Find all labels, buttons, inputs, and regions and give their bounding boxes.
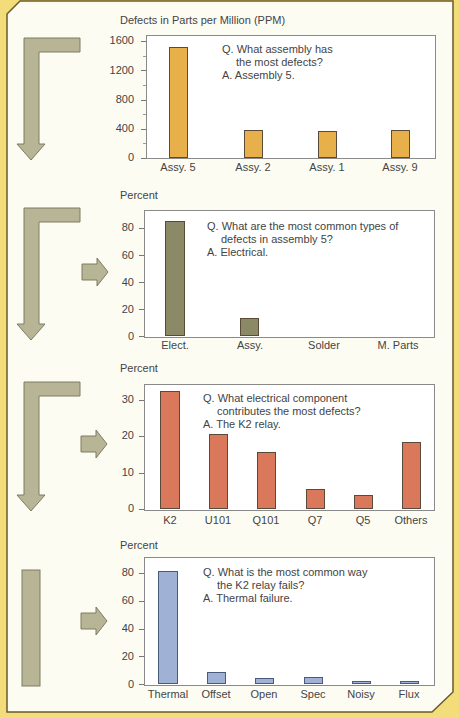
annotation-qa: Q. What assembly has the most defects? A… [222,43,333,82]
bar-q5 [354,495,373,509]
y-tick: 1200 [104,64,134,76]
y-tick: 20 [104,303,134,315]
y-axis-label: Percent [120,189,158,201]
bar-elect [165,221,185,336]
y-tick: 10 [104,466,134,478]
y-axis-label: Percent [120,539,158,551]
y-tick: 40 [104,276,134,288]
down-arrow-icon [17,38,80,160]
bar-q7 [306,489,325,509]
x-category: Flux [379,688,439,700]
annotation-qa: Q. What are the most common types of def… [207,220,398,259]
x-category: Assy. 2 [223,161,283,173]
y-tick: 40 [104,622,134,634]
bar-flux [400,681,419,684]
bar-u101 [209,434,228,509]
bar-others [402,442,421,509]
bar-assy-9 [391,130,410,158]
y-tick: 800 [104,93,134,105]
annotation-qa: Q. What electrical component contributes… [203,392,361,431]
vertical-bar-icon [22,570,40,686]
bar-assy-1 [318,131,337,158]
x-category: M. Parts [368,339,428,351]
bar-k2 [160,391,180,509]
x-category: Elect. [145,339,205,351]
x-category: Others [381,514,441,526]
y-axis-label: Defects in Parts per Million (PPM) [120,14,285,26]
bar-thermal [158,571,178,684]
bar-spec [304,677,323,684]
flow-arrows [0,0,120,718]
x-category: Assy. 1 [297,161,357,173]
y-tick: 30 [104,393,134,405]
y-tick: 60 [104,594,134,606]
bar-noisy [352,681,371,684]
y-tick: 20 [104,429,134,441]
y-tick: 0 [104,330,134,342]
bar-assy [240,318,259,336]
y-tick: 80 [104,221,134,233]
bar-assy-2 [244,130,263,158]
bar-q101 [257,452,276,509]
y-tick: 0 [104,678,134,690]
y-tick: 60 [104,249,134,261]
y-tick: 0 [104,502,134,514]
y-tick: 80 [104,566,134,578]
bar-offset [207,672,226,684]
y-tick: 400 [104,122,134,134]
bar-open [255,678,274,684]
y-tick: 1600 [104,34,134,46]
y-tick: 20 [104,650,134,662]
x-category: Assy. [220,339,280,351]
x-category: Assy. 9 [370,161,430,173]
annotation-qa: Q. What is the most common way the K2 re… [203,566,367,605]
down-arrow-icon [17,382,80,511]
x-category: Solder [294,339,354,351]
bar-assy-5 [169,47,188,158]
down-arrow-icon [17,208,80,340]
y-tick: 0 [104,151,134,163]
y-axis-label: Percent [120,362,158,374]
x-category: Assy. 5 [148,161,208,173]
